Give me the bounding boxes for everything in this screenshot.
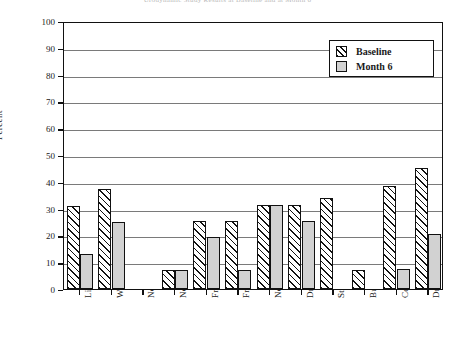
bar-baseline: [320, 198, 333, 289]
x-axis-tick: [269, 290, 270, 295]
gridline: [64, 103, 442, 104]
x-axis-tick: [206, 290, 207, 295]
y-axis-tick-label: 10: [28, 259, 55, 267]
bar-month6: [207, 237, 220, 289]
bar-baseline: [352, 270, 365, 289]
y-axis-tick-label: 60: [28, 125, 55, 133]
bar-month6: [302, 221, 315, 289]
bar-month6: [428, 234, 441, 289]
bar-baseline: [383, 186, 396, 289]
bar-month6: [238, 270, 251, 289]
y-axis-tick-label: 0: [28, 286, 55, 294]
bar-month6: [175, 270, 188, 289]
bar-month6: [80, 254, 93, 289]
x-axis-tick: [111, 290, 112, 295]
y-axis-tick-label: 20: [28, 232, 55, 240]
chart-title: Urodynamic Study Results at Baseline and…: [0, 0, 455, 4]
bar-month6: [397, 269, 410, 289]
y-axis-tick-label: 70: [28, 98, 55, 106]
x-axis-tick: [427, 290, 428, 295]
legend-label-month6: Month 6: [356, 61, 392, 72]
x-axis-tick: [364, 290, 365, 295]
chart-legend: Baseline Month 6: [329, 40, 434, 77]
bar-baseline: [415, 168, 428, 289]
gray-swatch-icon: [336, 61, 347, 72]
x-axis-tick: [332, 290, 333, 295]
y-axis-tick-label: 100: [28, 18, 55, 26]
bar-baseline: [257, 205, 270, 289]
bar-baseline: [288, 205, 301, 289]
y-axis-label: Percent: [0, 110, 4, 140]
x-axis-tick: [79, 290, 80, 295]
x-axis-tick: [142, 290, 143, 295]
y-axis-tick-label: 50: [28, 152, 55, 160]
x-axis-tick: [174, 290, 175, 295]
gridline: [64, 157, 442, 158]
bar-baseline: [98, 189, 111, 290]
gridline: [64, 184, 442, 185]
hatched-swatch-icon: [336, 46, 347, 57]
bar-baseline: [193, 221, 206, 289]
y-axis-tick-label: 90: [28, 45, 55, 53]
legend-item-baseline: Baseline: [336, 44, 433, 59]
y-axis-tick: [58, 290, 63, 291]
y-axis-tick-label: 40: [28, 179, 55, 187]
y-axis-tick-label: 80: [28, 72, 55, 80]
y-axis-tick-label: 30: [28, 206, 55, 214]
x-axis-tick: [237, 290, 238, 295]
gridline: [64, 130, 442, 131]
bar-baseline: [225, 221, 238, 289]
legend-label-baseline: Baseline: [356, 46, 392, 57]
bar-baseline: [67, 206, 80, 289]
x-axis-tick: [396, 290, 397, 295]
legend-item-month6: Month 6: [336, 59, 433, 74]
x-axis-tick: [301, 290, 302, 295]
bar-month6: [270, 205, 283, 289]
bar-chart-figure: Urodynamic Study Results at Baseline and…: [0, 0, 455, 359]
bar-month6: [112, 222, 125, 289]
bar-baseline: [162, 270, 175, 289]
